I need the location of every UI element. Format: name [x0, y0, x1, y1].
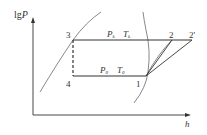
saturated-liquid-line [40, 12, 101, 92]
point-label-2: 2 [169, 30, 174, 40]
condensing-pressure-label: Pk [106, 29, 116, 39]
y-axis-arrow-icon [31, 17, 35, 23]
point-label-2prime: 2' [189, 30, 196, 40]
y-axis-label: lgP [14, 9, 28, 20]
point-label-1: 1 [136, 79, 141, 89]
evaporating-pressure-label: P0 [99, 65, 109, 75]
lgp-h-diagram: lgP h 3 4 1 2 2' Pk Tk P0 T0 [0, 0, 207, 135]
evaporating-temp-label: T0 [117, 65, 125, 75]
condensing-temp-label: Tk [123, 29, 131, 39]
x-axis-label: h [185, 119, 190, 129]
point-label-4: 4 [66, 79, 71, 89]
saturated-vapor-line [134, 12, 149, 103]
compression-line-1-2prime [146, 40, 192, 76]
compression-line-1-2 [146, 40, 172, 76]
x-axis-arrow-icon [185, 113, 191, 117]
point-label-3: 3 [66, 30, 71, 40]
